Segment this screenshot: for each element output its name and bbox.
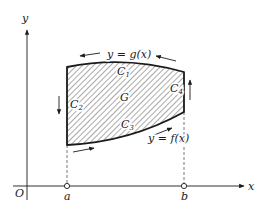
lower-curve-label: y = f(x) — [147, 132, 189, 145]
arrow-upper-left-icon — [80, 53, 100, 56]
arrow-lower-left-icon — [73, 148, 94, 152]
point-b-marker — [181, 183, 186, 188]
x-axis-label: x — [248, 180, 255, 193]
region-diagram: y x O a b y = g(x) y = f(x) C1 C2 C3 C4 … — [0, 0, 266, 217]
point-a-label: a — [64, 190, 71, 203]
y-axis-label: y — [21, 12, 29, 25]
arrow-upper-right-icon — [156, 56, 176, 61]
point-a-marker — [64, 183, 69, 188]
region-label: G — [120, 91, 129, 104]
origin-label: O — [15, 187, 24, 200]
point-b-label: b — [181, 190, 188, 203]
upper-curve-label: y = g(x) — [106, 48, 151, 61]
